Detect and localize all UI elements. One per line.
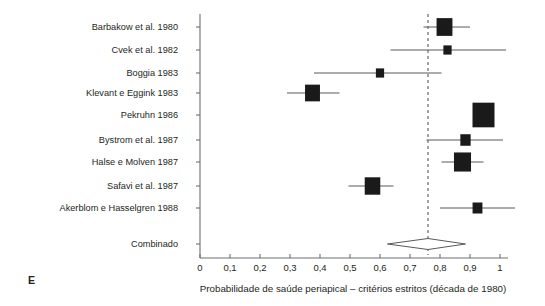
x-axis-tick-label: 0,1 <box>223 262 236 273</box>
study-estimate-marker <box>437 18 453 36</box>
x-axis-title: Probabilidade de saúde periapical – crit… <box>200 283 507 294</box>
summary-diamond <box>388 239 466 250</box>
study-label: Cvek et al. 1982 <box>112 45 178 55</box>
x-axis-tick-label: 0,9 <box>463 262 476 273</box>
study-label: Akerblom e Hasselgren 1988 <box>60 203 178 213</box>
study-estimate-marker <box>443 45 451 54</box>
study-label: Bystrom et al. 1987 <box>99 135 178 145</box>
forest-plot: Barbakow et al. 1980Cvek et al. 1982Bogg… <box>0 0 545 306</box>
study-label: Boggia 1983 <box>126 68 178 78</box>
x-axis-tick-label: 0,3 <box>283 262 296 273</box>
x-axis-tick-label: 0,5 <box>343 262 356 273</box>
summary-label: Combinado <box>131 239 178 249</box>
forest-plot-canvas <box>0 0 545 306</box>
x-axis-tick-label: 0,2 <box>253 262 266 273</box>
study-estimate-marker <box>454 152 471 171</box>
x-axis-tick-label: 0,8 <box>433 262 446 273</box>
study-estimate-marker <box>460 134 470 146</box>
study-label: Safavi et al. 1987 <box>107 181 178 191</box>
study-estimate-marker <box>473 103 495 128</box>
study-estimate-marker <box>473 202 483 213</box>
study-estimate-marker <box>365 177 381 194</box>
x-axis-tick-label: 0,6 <box>373 262 386 273</box>
x-axis-tick-label: 0,7 <box>403 262 416 273</box>
study-estimate-marker <box>376 68 384 77</box>
x-axis-tick-label: 0 <box>197 262 202 273</box>
study-label: Halse e Molven 1987 <box>92 157 178 167</box>
study-estimate-marker <box>305 85 320 102</box>
x-axis-tick-label: 1 <box>497 262 502 273</box>
x-axis-tick-label: 0,4 <box>313 262 326 273</box>
study-label: Pekruhn 1986 <box>121 110 178 120</box>
study-label: Klevant e Eggink 1983 <box>86 88 178 98</box>
panel-letter: E <box>28 274 35 286</box>
study-label: Barbakow et al. 1980 <box>92 22 178 32</box>
